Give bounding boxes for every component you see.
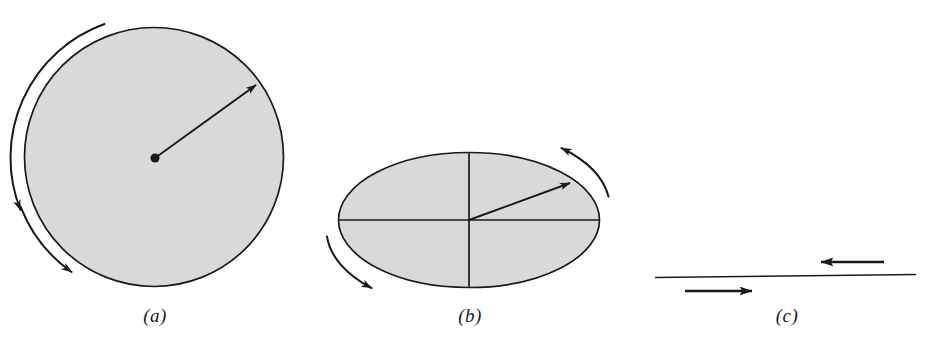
- panel-label-a: (a): [143, 305, 167, 327]
- flat-line-body: [655, 275, 916, 278]
- panel-label-c: (c): [776, 305, 799, 327]
- center-hub-dot-a: [151, 154, 160, 163]
- panel-a-group: [10, 24, 283, 287]
- panel-c-group: [655, 262, 916, 291]
- figure-root: (a) (b) (c): [0, 0, 937, 346]
- panel-label-b: (b): [458, 305, 482, 327]
- figure-canvas: [0, 0, 937, 346]
- panel-b-group: [327, 148, 609, 288]
